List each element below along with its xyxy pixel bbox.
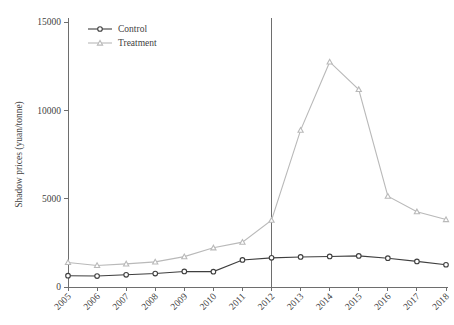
legend-item-control[interactable]: Control: [88, 24, 147, 34]
x-tick-label: 2010: [198, 291, 219, 312]
data-point: [415, 259, 420, 264]
legend: ControlTreatment: [88, 24, 157, 48]
data-point: [153, 259, 158, 264]
axes-group: [68, 18, 448, 287]
x-tick-label: 2008: [140, 291, 161, 312]
series-treatment: [65, 59, 448, 267]
data-point: [385, 194, 390, 199]
x-tick-label: 2018: [430, 291, 451, 312]
y-tick-label: 10000: [37, 106, 61, 116]
legend-swatch-marker: [98, 27, 103, 32]
data-point: [94, 263, 99, 268]
x-tick-label: 2005: [52, 291, 73, 312]
data-point: [298, 128, 303, 133]
data-point: [66, 273, 71, 278]
data-point: [211, 245, 216, 250]
data-point: [386, 256, 391, 261]
legend-item-treatment[interactable]: Treatment: [88, 38, 157, 48]
x-tick-group: 2005200620072008200920102011201220132014…: [52, 287, 451, 312]
data-point: [298, 255, 303, 260]
chart-figure: 0500010000150002005200620072008200920102…: [0, 0, 454, 325]
x-tick-label: 2013: [285, 291, 306, 312]
data-point: [211, 269, 216, 274]
series-line-treatment: [68, 62, 446, 266]
line-chart-canvas: 0500010000150002005200620072008200920102…: [0, 0, 454, 325]
y-axis-title: Shadow prices (yuan/tonne): [14, 101, 25, 208]
y-tick-group: 050001000015000: [37, 17, 68, 292]
x-tick-label: 2006: [81, 291, 102, 312]
data-point: [182, 254, 187, 259]
data-point: [444, 262, 449, 267]
data-point: [443, 217, 448, 222]
x-tick-label: 2015: [343, 291, 364, 312]
data-point: [65, 260, 70, 265]
data-point: [153, 271, 158, 276]
data-point: [95, 274, 100, 279]
y-tick-label: 5000: [42, 194, 61, 204]
data-point: [414, 209, 419, 214]
x-tick-label: 2012: [256, 291, 277, 312]
data-point: [124, 273, 129, 278]
y-tick-label: 0: [56, 282, 61, 292]
data-point: [240, 258, 245, 263]
x-tick-label: 2014: [314, 291, 335, 312]
y-tick-label: 15000: [37, 17, 61, 27]
x-tick-label: 2017: [401, 291, 422, 312]
legend-label: Control: [118, 24, 147, 34]
x-tick-label: 2009: [169, 291, 190, 312]
data-point: [124, 261, 129, 266]
legend-label: Treatment: [118, 38, 157, 48]
data-point: [269, 256, 274, 261]
legend-swatch-marker: [97, 40, 102, 45]
x-tick-label: 2011: [227, 291, 247, 311]
data-point: [182, 269, 187, 274]
data-point: [269, 218, 274, 223]
data-point: [356, 254, 361, 259]
x-tick-label: 2016: [372, 291, 393, 312]
data-point: [327, 254, 332, 259]
data-point: [327, 59, 332, 64]
x-tick-label: 2007: [111, 291, 132, 312]
